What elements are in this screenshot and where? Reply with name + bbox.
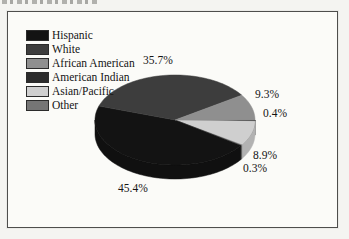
slice-label-white: 35.7% — [143, 54, 173, 66]
legend-swatch-hispanic — [26, 30, 49, 41]
legend-label-asian-pacific: Asian/Pacific — [52, 85, 114, 98]
legend-item-asian-pacific: Asian/Pacific — [26, 84, 135, 98]
legend-item-hispanic: Hispanic — [26, 28, 135, 42]
legend-item-other: Other — [26, 98, 135, 112]
legend-swatch-white — [26, 44, 49, 55]
legend-item-african-american: African American — [26, 56, 135, 70]
legend-label-white: White — [52, 43, 80, 56]
legend-label-african-american: African American — [52, 57, 135, 70]
slice-label-other: 0.3% — [243, 162, 267, 174]
slice-label-asian-pacific: 8.9% — [253, 149, 277, 161]
legend-swatch-african-american — [26, 58, 49, 69]
legend-swatch-american-indian — [26, 72, 49, 83]
legend-item-american-indian: American Indian — [26, 70, 135, 84]
legend-label-other: Other — [52, 99, 78, 112]
chart-frame: Hispanic White African American American… — [7, 11, 338, 228]
cropped-caption-fragment — [2, 0, 98, 4]
legend-swatch-other — [26, 100, 49, 111]
legend-label-hispanic: Hispanic — [52, 29, 93, 42]
pie-legend: Hispanic White African American American… — [26, 28, 135, 112]
scanned-figure-page: { "chart_data": { "type": "pie", "style"… — [0, 0, 349, 239]
slice-label-american-indian: 0.4% — [263, 107, 287, 119]
legend-swatch-asian-pacific — [26, 86, 49, 97]
slice-label-hispanic: 45.4% — [118, 182, 148, 194]
slice-label-african-american: 9.3% — [255, 88, 279, 100]
legend-label-american-indian: American Indian — [52, 71, 130, 84]
legend-item-white: White — [26, 42, 135, 56]
